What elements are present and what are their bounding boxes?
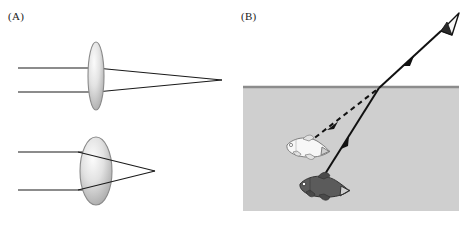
water-body: [243, 86, 459, 211]
panel-a-label: (A): [8, 10, 24, 22]
real-light-ray-air: [379, 31, 441, 88]
optics-figure: (A) (B): [0, 0, 469, 226]
panel-b-label: (B): [241, 10, 257, 22]
observer-eye-icon: [441, 13, 459, 35]
panel-b-diagram: [0, 0, 469, 226]
